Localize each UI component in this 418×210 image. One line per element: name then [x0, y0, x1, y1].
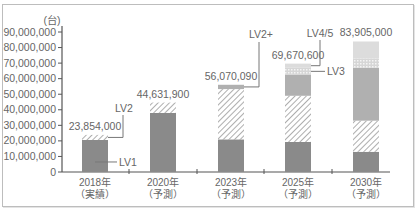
y-tick-label: 80,000,000 [3, 41, 56, 53]
bar-segment-lv2 [82, 135, 108, 140]
bar-segment-lv1 [218, 139, 244, 172]
y-tick-label: 70,000,000 [3, 57, 56, 69]
x-category-label: 2018年 [79, 176, 111, 188]
bar-segment-lv2 [285, 96, 311, 142]
y-tick-label: 20,000,000 [3, 134, 56, 146]
bar-segment-lv2- [353, 68, 379, 121]
bar-segment-lv3 [285, 68, 311, 75]
y-tick-label: 30,000,000 [3, 119, 56, 131]
annotation-lv4-5: LV4/5 [307, 27, 334, 39]
bar-segment-lv1 [353, 152, 379, 172]
bar-segment-lv1 [82, 140, 108, 172]
y-tick-label: 90,000,000 [3, 26, 56, 38]
y-tick-label: 60,000,000 [3, 72, 56, 84]
x-category-label: 2023年 [215, 176, 247, 188]
x-category-label: 2030年 [350, 176, 382, 188]
annotation-lv3: LV3 [327, 65, 345, 77]
x-category-label: 2025年 [282, 176, 314, 188]
annotation-lv2plus: LV2+ [249, 28, 273, 40]
bar-segment-lv1 [150, 113, 176, 172]
y-axis-unit-label: (台) [44, 14, 61, 26]
bar-segment-lv2- [218, 85, 244, 89]
stacked-bar-chart: (台)010,000,00020,000,00030,000,00040,000… [0, 0, 418, 210]
y-tick-label: 50,000,000 [3, 88, 56, 100]
y-tick-label: 40,000,000 [3, 103, 56, 115]
x-category-label: 2020年 [147, 176, 179, 188]
y-tick-label: 0 [50, 166, 56, 178]
bar-total-label: 69,670,600 [272, 49, 325, 61]
x-category-sublabel: （実績） [75, 188, 115, 200]
bar-total-label: 23,854,000 [69, 120, 122, 132]
annotation-lv2: LV2 [115, 102, 133, 114]
x-category-sublabel: （予測） [211, 188, 251, 200]
bar-segment-lv4-5 [285, 64, 311, 68]
annotation-lv1: LV1 [119, 156, 137, 168]
bar-segment-lv2- [285, 75, 311, 96]
x-category-sublabel: （予測） [143, 188, 183, 200]
bar-segment-lv4-5 [353, 41, 379, 58]
bar-segment-lv2 [353, 121, 379, 152]
x-category-sublabel: （予測） [346, 188, 386, 200]
x-category-sublabel: （予測） [278, 188, 318, 200]
bar-total-label: 56,070,090 [205, 70, 258, 82]
bar-total-label: 83,905,000 [340, 26, 393, 38]
bar-segment-lv2 [150, 103, 176, 113]
bar-segment-lv1 [285, 142, 311, 172]
bar-segment-lv2 [218, 89, 244, 139]
bar-total-label: 44,631,900 [137, 88, 190, 100]
y-tick-label: 10,000,000 [3, 150, 56, 162]
bar-segment-lv3 [353, 58, 379, 67]
